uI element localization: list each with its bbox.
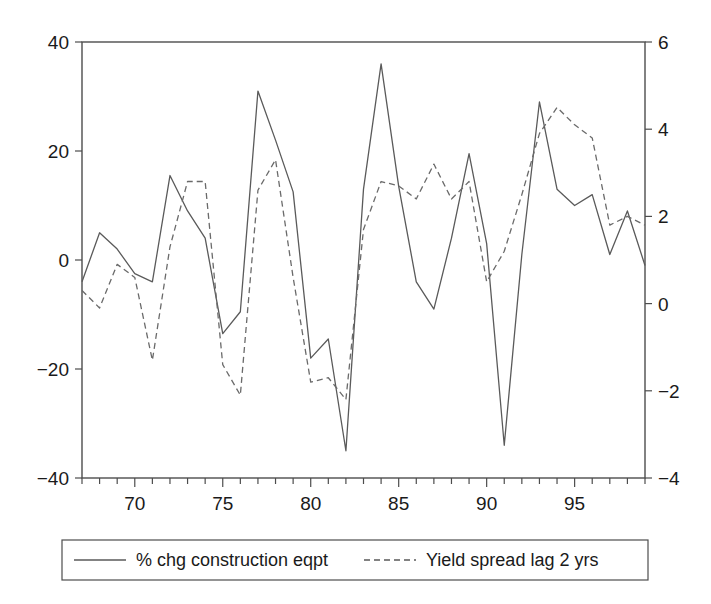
x-axis-tick-label: 95 xyxy=(564,493,585,514)
y-axis-right-tick-label: 4 xyxy=(658,119,669,140)
chart-figure: 40200−20−406420−2−4707580859095% chg con… xyxy=(0,0,711,604)
x-axis-tick-label: 90 xyxy=(476,493,497,514)
y-axis-left-tick-label: 0 xyxy=(58,250,69,271)
legend-label-1: % chg construction eqpt xyxy=(136,550,328,570)
y-axis-right-tick-label: 0 xyxy=(658,294,669,315)
y-axis-left-tick-label: −20 xyxy=(37,359,69,380)
chart-svg: 40200−20−406420−2−4707580859095% chg con… xyxy=(0,0,711,604)
x-axis-tick-label: 85 xyxy=(388,493,409,514)
legend-label-2: Yield spread lag 2 yrs xyxy=(426,550,598,570)
y-axis-right-tick-label: 2 xyxy=(658,206,669,227)
plot-area-frame xyxy=(82,42,645,478)
y-axis-right-tick-label: 6 xyxy=(658,32,669,53)
y-axis-right-tick-label: −2 xyxy=(658,381,680,402)
y-axis-right-tick-label: −4 xyxy=(658,468,680,489)
x-axis-tick-label: 70 xyxy=(124,493,145,514)
x-axis-tick-label: 75 xyxy=(212,493,233,514)
y-axis-left-tick-label: −40 xyxy=(37,468,69,489)
y-axis-left-tick-label: 20 xyxy=(48,141,69,162)
y-axis-left-tick-label: 40 xyxy=(48,32,69,53)
x-axis-tick-label: 80 xyxy=(300,493,321,514)
